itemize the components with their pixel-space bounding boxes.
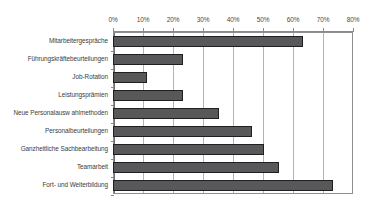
- x-axis-tick-label: 10%: [137, 16, 150, 23]
- category-axis-label: Mitarbeitergespräche: [49, 37, 108, 45]
- category-axis-label: Leistungsprämien: [58, 91, 108, 99]
- bar[interactable]: [113, 36, 303, 47]
- category-axis-label: Neue Personalausw ahlmethoden: [14, 109, 108, 117]
- category-axis-label: Fort- und Weiterbildung: [42, 181, 108, 189]
- bar[interactable]: [113, 162, 279, 173]
- category-axis-tick-mark: [111, 195, 114, 196]
- category-axis-label: Personalbeurteilungen: [45, 127, 108, 135]
- bar-band: [114, 141, 354, 159]
- x-axis-tick-label: 70%: [317, 16, 330, 23]
- category-axis-label: Führungskräftebeurteilungen: [28, 55, 108, 63]
- bar-band: [114, 177, 354, 195]
- x-axis-tick-mark: [353, 28, 354, 32]
- category-axis-label: Ganzheitliche Sachbearbeitung: [21, 145, 108, 153]
- x-axis-tick-label: 60%: [287, 16, 300, 23]
- bar-band: [114, 123, 354, 141]
- x-axis-tick-label: 80%: [347, 16, 360, 23]
- bar-band: [114, 87, 354, 105]
- plot-area: [113, 32, 353, 194]
- bar-band: [114, 69, 354, 87]
- x-axis-tick-label: 50%: [257, 16, 270, 23]
- bar[interactable]: [113, 180, 333, 191]
- x-axis-tick-label: 40%: [227, 16, 240, 23]
- category-axis-label: Job-Rotation: [72, 73, 108, 81]
- x-axis-tick-label: 20%: [167, 16, 180, 23]
- bar[interactable]: [113, 90, 183, 101]
- x-axis-tick-labels: 0%10%20%30%40%50%60%70%80%: [0, 16, 374, 27]
- bar[interactable]: [113, 54, 183, 65]
- bar[interactable]: [113, 144, 264, 155]
- bar-band: [114, 159, 354, 177]
- horizontal-bar-chart: 0%10%20%30%40%50%60%70%80% Mitarbeiterge…: [0, 0, 374, 206]
- bar[interactable]: [113, 108, 219, 119]
- bar-band: [114, 33, 354, 51]
- category-axis-label: Teamarbeit: [77, 163, 108, 171]
- bar-band: [114, 51, 354, 69]
- category-axis-labels: MitarbeitergesprächeFührungskräftebeurte…: [0, 32, 111, 194]
- bar[interactable]: [113, 126, 252, 137]
- bar[interactable]: [113, 72, 147, 83]
- x-axis-tick-label: 30%: [197, 16, 210, 23]
- bar-band: [114, 105, 354, 123]
- x-axis-tick-label: 0%: [108, 16, 117, 23]
